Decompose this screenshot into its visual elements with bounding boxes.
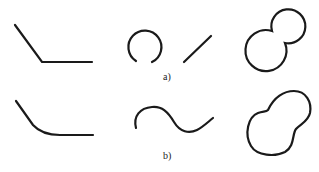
- two-circles-union-outline: [245, 9, 305, 71]
- row-b-shapes: [16, 91, 310, 155]
- open-arc: [128, 31, 161, 62]
- row-a-label: a): [163, 72, 171, 82]
- separate-line-segment: [184, 36, 211, 62]
- sharp-corner-polyline: [15, 25, 92, 62]
- diagram-canvas: [0, 0, 319, 172]
- smooth-s-curve: [135, 107, 213, 132]
- row-a-shapes: [15, 9, 305, 71]
- rounded-corner-curve: [16, 101, 93, 135]
- row-b-label: b): [163, 151, 171, 161]
- smooth-peanut-outline: [247, 91, 310, 155]
